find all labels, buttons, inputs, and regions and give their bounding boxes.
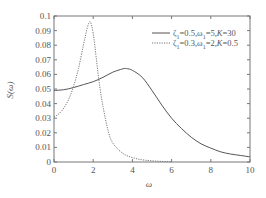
legend-entry-dotted: ζ1=0.3,ω1=2,K=0.5: [173, 38, 238, 50]
y-tick-label: 0.07: [35, 55, 51, 65]
y-tick-label: 0.04: [35, 99, 51, 109]
y-tick-label: 0.08: [35, 40, 51, 50]
line-chart: 00.010.020.030.040.050.060.070.080.090.1…: [0, 0, 266, 198]
y-axis-label: S(ω): [5, 82, 15, 99]
y-tick-label: 0.03: [35, 113, 51, 123]
y-tick-label: 0.05: [35, 84, 51, 94]
y-tick-label: 0.01: [35, 142, 51, 152]
y-tick-label: 0.06: [35, 69, 51, 79]
x-tick-label: 2: [91, 165, 96, 175]
series-line-dotted: [54, 22, 172, 162]
y-tick-label: 0.09: [35, 26, 51, 36]
x-tick-label: 10: [246, 165, 256, 175]
y-tick-label: 0.1: [40, 11, 51, 21]
x-axis-label: ω: [146, 179, 152, 189]
x-tick-label: 0: [52, 165, 57, 175]
legend: ζ1=0.5,ω1=5,K=30 ζ1=0.3,ω1=2,K=0.5: [152, 28, 238, 50]
x-tick-label: 4: [130, 165, 135, 175]
x-tick-label: 8: [209, 165, 214, 175]
y-tick-label: 0.02: [35, 128, 51, 138]
x-tick-label: 6: [169, 165, 174, 175]
y-tick-label: 0: [47, 157, 52, 167]
series-line-solid: [54, 68, 250, 157]
